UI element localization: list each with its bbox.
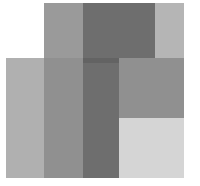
shape-top-rect-left-band bbox=[44, 3, 83, 63]
shape-bottom-rect-dark-column bbox=[83, 58, 119, 178]
shape-bottom-rect-lower-right bbox=[119, 118, 184, 178]
shape-top-rect-dark-band bbox=[83, 3, 155, 63]
shape-bottom-rect-light-column bbox=[6, 58, 44, 178]
shape-top-rect-right-band bbox=[155, 3, 184, 63]
shape-overlap-dark-band bbox=[83, 58, 119, 63]
shape-bottom-rect-upper-right bbox=[119, 58, 184, 118]
figure-canvas bbox=[0, 0, 200, 186]
shape-bottom-rect-mid-column bbox=[44, 58, 83, 178]
